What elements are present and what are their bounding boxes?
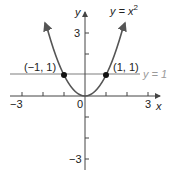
tick-label-neg3-y: −3 <box>69 153 82 165</box>
tick-label-0: 0 <box>77 98 83 110</box>
point-1-1 <box>103 72 109 78</box>
point-label-right: (1, 1) <box>113 61 139 73</box>
x-axis-label: x <box>155 100 162 112</box>
tick-label-3-x: 3 <box>145 98 151 110</box>
y-axis-label: y <box>74 6 82 18</box>
point-neg1-1 <box>61 72 67 78</box>
line-label-y1: y = 1 <box>142 68 167 80</box>
point-label-left: (−1, 1) <box>24 61 56 73</box>
tick-label-neg3-x: −3 <box>10 98 23 110</box>
graph: (−1, 1) (1, 1) y = 1 y = x2 y x 3 −3 −3 … <box>0 0 172 173</box>
curve-label: y = x2 <box>109 3 139 17</box>
tick-label-3-y: 3 <box>74 27 80 39</box>
